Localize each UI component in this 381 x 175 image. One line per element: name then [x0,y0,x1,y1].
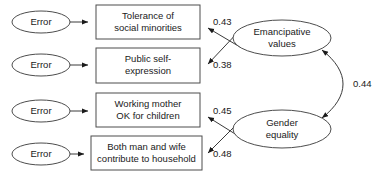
factor-label-line1: Gender [266,117,298,128]
indicator-node-3: Working mother OK for children [96,93,200,127]
indicator-node-1: Tolerance of social minorities [96,5,200,39]
error-term-3: Error [12,100,70,122]
loading-value-public-self-expression: 0.38 [213,59,232,70]
factor-label-line2: equality [266,129,299,140]
indicator-node-4: Both man and wife contribute to househol… [91,136,202,170]
error-term-2: Error [12,54,70,76]
factor-label-line1: Emancipative [253,26,310,37]
diagram-canvas: Error Error Error Error Tolerance of soc… [0,0,381,175]
error-term-1: Error [12,11,70,33]
correlation-value: 0.44 [353,78,372,89]
indicator-label-line1: Both man and wife [107,141,186,152]
indicator-label-line1: Working mother [115,98,182,109]
loading-value-tolerance: 0.43 [213,16,232,27]
error-label: Error [30,148,51,159]
factor-label-line2: values [268,38,296,49]
error-label: Error [30,16,51,27]
indicator-label-line1: Tolerance of [122,10,174,21]
latent-factor-gender-equality: Gender equality [233,110,331,148]
indicator-label-line2: social minorities [114,22,182,33]
indicator-label-line2: expression [125,65,171,76]
error-term-4: Error [12,143,70,165]
indicator-label-line2: contribute to household [97,153,196,164]
latent-factor-emancipative-values: Emancipative values [233,20,331,56]
error-label: Error [30,105,51,116]
sem-path-diagram: Error Error Error Error Tolerance of soc… [0,0,381,175]
indicator-node-2: Public self- expression [96,48,200,83]
error-label: Error [30,59,51,70]
indicator-label-line2: OK for children [116,110,179,121]
indicator-label-line1: Public self- [125,53,171,64]
loading-value-both-contribute: 0.48 [213,148,232,159]
loading-value-working-mother: 0.45 [213,105,232,116]
correlation-curve-double-arrow [322,50,343,118]
